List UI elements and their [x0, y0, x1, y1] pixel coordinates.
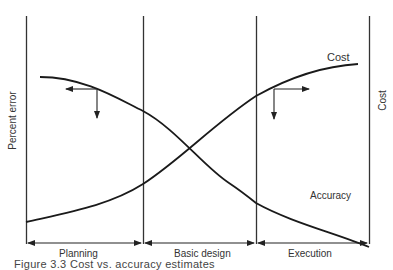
figure-caption: Figure 3.3 Cost vs. accuracy estimates — [14, 258, 215, 270]
right-axis-label: Cost — [377, 81, 388, 121]
cost-curve-label: Cost — [327, 51, 350, 63]
left-axis-label: Percent error — [7, 91, 18, 151]
accuracy-curve-label: Accuracy — [310, 190, 351, 201]
accuracy-curve — [40, 77, 369, 247]
cost-curve — [26, 64, 358, 222]
phase-label-execution: Execution — [288, 248, 332, 259]
